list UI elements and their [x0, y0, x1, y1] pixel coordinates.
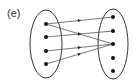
codomain-point-b1 [111, 15, 115, 19]
arrowhead-icon [46, 48, 80, 52]
codomain-point-b2 [111, 29, 115, 33]
arrowhead-icon [46, 24, 80, 34]
domain-point-a1 [44, 22, 48, 26]
domain-point-a3 [44, 49, 48, 53]
codomain-point-b4 [111, 56, 115, 60]
mapping-diagram [0, 0, 137, 83]
arrowhead-icon [46, 34, 80, 37]
domain-point-a4 [44, 62, 48, 66]
domain-point-a2 [44, 35, 48, 39]
arrowhead-icon [46, 21, 80, 25]
domain-set-ellipse [30, 10, 62, 78]
arrowhead-icon [46, 54, 80, 64]
codomain-point-b3 [111, 42, 115, 46]
codomain-point-b5 [111, 69, 115, 73]
